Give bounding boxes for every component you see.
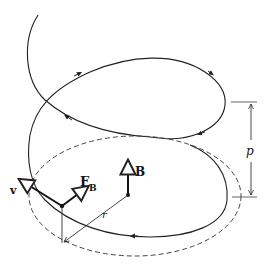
helix-upper-loop	[30, 58, 225, 139]
projection-ellipse	[29, 136, 241, 256]
force-subscript: B	[89, 183, 97, 193]
velocity-label: v	[9, 184, 17, 197]
helix-top-tail	[27, 15, 150, 137]
velocity-vector	[30, 186, 62, 206]
arrow-marker-upper-right	[208, 71, 212, 74]
force-vector	[62, 194, 78, 206]
pitch-label: p	[246, 144, 254, 158]
helix-diagram: v F B B r p	[0, 0, 265, 271]
field-label: B	[135, 165, 145, 179]
arrow-marker-upper-left	[74, 73, 80, 76]
